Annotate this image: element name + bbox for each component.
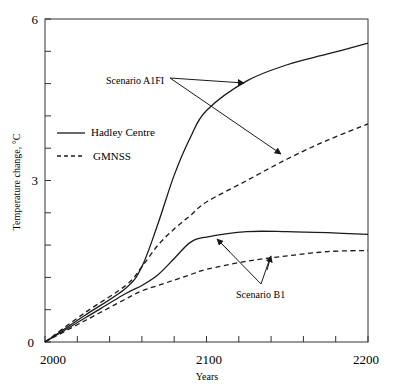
plot-frame bbox=[45, 19, 368, 342]
y-axis-title: Temperature change, °C bbox=[11, 133, 22, 230]
series-line-hadley-centre-scenario-a1fi bbox=[45, 43, 368, 342]
arrow-icon bbox=[170, 78, 244, 83]
temperature-chart: 6 3 0 2000 2100 2200 Years Temperature c… bbox=[0, 0, 393, 390]
legend: Hadley Centre GMNSS bbox=[57, 126, 155, 162]
axis-ticks bbox=[45, 19, 368, 342]
x-axis-title: Years bbox=[196, 371, 218, 382]
x-tick-label-2100: 2100 bbox=[196, 352, 222, 367]
annotation-label-a1fi: Scenario A1FI bbox=[106, 75, 164, 86]
y-tick-label-0: 0 bbox=[28, 335, 35, 350]
x-tick-label-2200: 2200 bbox=[353, 352, 379, 367]
annotation-a1fi: Scenario A1FI bbox=[106, 75, 281, 154]
arrow-icon bbox=[170, 78, 281, 154]
legend-label-gmnss: GMNSS bbox=[93, 150, 131, 162]
legend-label-hadley: Hadley Centre bbox=[91, 126, 155, 138]
series-line-gmnss-scenario-b1 bbox=[45, 250, 368, 342]
annotation-label-b1: Scenario B1 bbox=[236, 289, 285, 300]
y-tick-label-6: 6 bbox=[32, 12, 39, 27]
series-line-hadley-centre-scenario-b1 bbox=[45, 231, 368, 342]
annotation-b1: Scenario B1 bbox=[217, 239, 285, 300]
arrow-icon bbox=[217, 239, 230, 252]
y-tick-label-3: 3 bbox=[32, 173, 39, 188]
x-tick-label-2000: 2000 bbox=[40, 352, 66, 367]
data-series bbox=[45, 43, 368, 342]
